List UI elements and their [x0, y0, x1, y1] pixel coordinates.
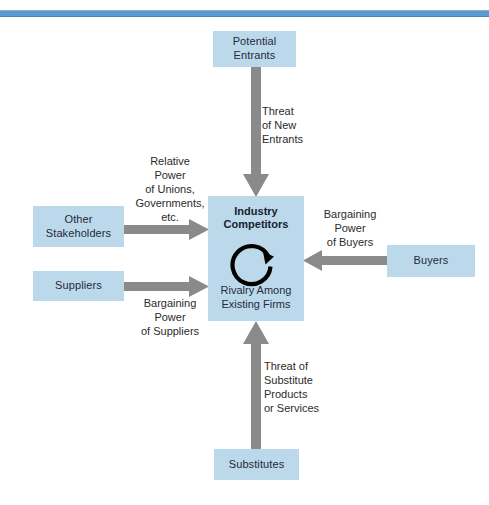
arrow-right-icon — [123, 276, 209, 297]
force-box-substitutes: Substitutes — [214, 449, 299, 480]
force-box-industry-competitors: Industry Competitors Rivalry Among Exist… — [208, 196, 304, 321]
label-bargaining-power-of-suppliers: Bargaining Power of Suppliers — [128, 296, 212, 338]
force-box-potential-entrants: Potential Entrants — [213, 31, 296, 67]
label-threat-of-substitute-products: Threat of Substitute Products or Service… — [264, 359, 360, 415]
header-rule — [0, 10, 489, 17]
force-box-suppliers: Suppliers — [33, 271, 124, 301]
force-box-substitutes-label: Substitutes — [229, 458, 285, 472]
industry-competitors-title: Industry Competitors — [208, 205, 304, 232]
force-box-buyers: Buyers — [387, 245, 475, 277]
label-threat-of-new-entrants: Threat of New Entrants — [262, 104, 352, 146]
force-box-buyers-label: Buyers — [414, 254, 449, 268]
five-forces-diagram: Potential Entrants Other Stakeholders Su… — [0, 0, 489, 505]
label-relative-power-of-unions: Relative Power of Unions, Governments, e… — [120, 154, 220, 224]
force-box-suppliers-label: Suppliers — [55, 279, 102, 293]
force-box-other-stakeholders: Other Stakeholders — [33, 206, 124, 247]
force-box-potential-entrants-label: Potential Entrants — [233, 35, 277, 63]
arrow-left-icon — [303, 250, 388, 271]
label-bargaining-power-of-buyers: Bargaining Power of Buyers — [313, 207, 387, 249]
industry-competitors-subtitle: Rivalry Among Existing Firms — [208, 284, 304, 311]
force-box-other-stakeholders-label: Other Stakeholders — [46, 213, 111, 241]
